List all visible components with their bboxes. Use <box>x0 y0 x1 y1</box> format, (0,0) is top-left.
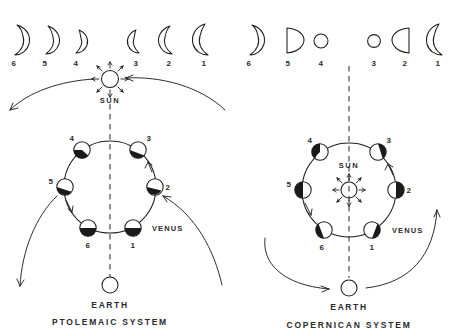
orbit-number-copernican-2: 2 <box>406 186 411 195</box>
orbit-number-copernican-5: 5 <box>286 180 291 189</box>
phase-number-ptolemaic-1: 1 <box>201 59 206 68</box>
venus-marker-ptolemaic-5 <box>57 179 73 195</box>
caption-ptolemaic: PTOLEMAIC SYSTEM <box>52 317 168 327</box>
venus-marker-copernican-6 <box>316 222 332 238</box>
orbit-number-ptolemaic-6: 6 <box>85 241 90 250</box>
orbit-number-copernican-6: 6 <box>319 243 324 252</box>
venus-marker-ptolemaic-4 <box>74 142 90 158</box>
earth-label-copernican: EARTH <box>330 302 367 312</box>
orbit-number-ptolemaic-5: 5 <box>48 177 53 186</box>
venus-marker-ptolemaic-2 <box>147 179 163 195</box>
sun-label-ptolemaic: SUN <box>100 96 121 105</box>
phase-number-ptolemaic-6: 6 <box>11 59 16 68</box>
phase-number-copernican-4: 4 <box>318 59 323 68</box>
venus-marker-ptolemaic-6 <box>80 220 96 236</box>
venus-phases-figure: 6 5 4 3 2 1 <box>0 0 460 336</box>
phase-number-copernican-2: 2 <box>402 59 407 68</box>
phase-number-ptolemaic-2: 2 <box>166 59 171 68</box>
phase-number-copernican-1: 1 <box>435 59 440 68</box>
venus-marker-copernican-1 <box>364 222 380 238</box>
venus-marker-copernican-5 <box>295 182 311 198</box>
earth-label-ptolemaic: EARTH <box>91 300 128 310</box>
venus-label-copernican: VENUS <box>392 226 423 235</box>
venus-label-ptolemaic: VENUS <box>152 224 183 233</box>
phase-number-ptolemaic-5: 5 <box>42 59 47 68</box>
orbit-number-ptolemaic-4: 4 <box>69 134 74 143</box>
orbit-number-ptolemaic-1: 1 <box>130 241 135 250</box>
phase-number-copernican-5: 5 <box>285 59 290 68</box>
orbit-number-copernican-1: 1 <box>369 243 374 252</box>
orbit-number-copernican-4: 4 <box>307 136 312 145</box>
venus-marker-ptolemaic-3 <box>130 142 146 158</box>
sun-label-copernican: SUN <box>339 161 360 170</box>
venus-marker-copernican-4 <box>312 144 328 160</box>
phase-number-ptolemaic-3: 3 <box>133 59 138 68</box>
phase-number-copernican-6: 6 <box>246 59 251 68</box>
phase-number-ptolemaic-4: 4 <box>73 59 78 68</box>
orbit-number-ptolemaic-2: 2 <box>165 183 170 192</box>
venus-marker-copernican-3 <box>370 144 386 160</box>
venus-marker-ptolemaic-1 <box>125 220 141 236</box>
orbit-number-copernican-3: 3 <box>386 136 391 145</box>
orbit-number-ptolemaic-3: 3 <box>146 134 151 143</box>
phase-number-copernican-3: 3 <box>371 59 376 68</box>
caption-copernican: COPERNICAN SYSTEM <box>286 320 411 330</box>
venus-marker-copernican-2 <box>388 182 404 198</box>
